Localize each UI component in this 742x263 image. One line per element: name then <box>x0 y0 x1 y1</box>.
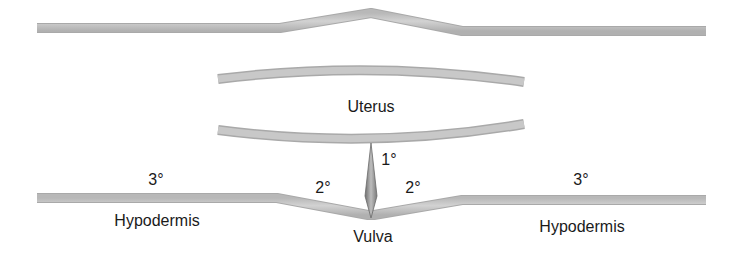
secondary-fate-right-label: 2° <box>405 180 420 196</box>
uterus-lower-wall <box>218 124 524 139</box>
primary-fate-label: 1° <box>381 152 396 168</box>
hypodermis-left-label: Hypodermis <box>114 213 199 229</box>
top-tissue-layer <box>37 13 706 31</box>
secondary-fate-left-label: 2° <box>315 180 330 196</box>
vulva-label: Vulva <box>353 229 392 245</box>
hypodermis-right-label: Hypodermis <box>539 219 624 235</box>
uterus-upper-wall <box>218 70 524 82</box>
tertiary-fate-left-label: 3° <box>148 172 163 188</box>
tertiary-fate-right-label: 3° <box>573 172 588 188</box>
vulva-spike <box>365 143 377 218</box>
uterus-label: Uterus <box>347 99 394 115</box>
diagram-canvas <box>0 0 742 263</box>
